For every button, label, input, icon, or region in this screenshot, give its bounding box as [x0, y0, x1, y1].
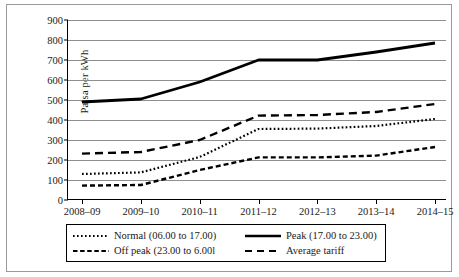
- legend-label: Average tariff: [286, 245, 344, 256]
- legend-entry-peak[interactable]: Peak (17.00 to 23.00): [245, 230, 377, 241]
- y-tick-label: 700: [47, 55, 63, 66]
- y-tick-label: 100: [47, 175, 63, 186]
- long-dash-line-icon: [245, 246, 281, 256]
- y-tick-label: 400: [47, 115, 63, 126]
- series-line: [82, 43, 435, 102]
- series-line: [82, 119, 435, 174]
- chart-legend: Normal (06.00 to 17.00) Peak (17.00 to 2…: [66, 224, 386, 262]
- legend-entry-off-peak[interactable]: Off peak (23.00 to 6.00l: [73, 245, 245, 256]
- x-tick-label: 2012–13: [299, 206, 336, 217]
- solid-line-icon: [245, 231, 281, 241]
- legend-entry-average-tariff[interactable]: Average tariff: [245, 245, 344, 256]
- x-tick-label: 2010–11: [181, 206, 217, 217]
- y-tick-label: 0: [58, 195, 63, 206]
- x-tick-label: 2011–12: [240, 206, 276, 217]
- legend-entry-normal[interactable]: Normal (06.00 to 17.00): [73, 230, 245, 241]
- y-tick-label: 300: [47, 135, 63, 146]
- plot-area: Paisa per kWh 01002003004005006007008009…: [67, 20, 446, 200]
- x-tick-label: 2009–10: [122, 206, 159, 217]
- legend-row: Normal (06.00 to 17.00) Peak (17.00 to 2…: [73, 228, 379, 243]
- x-tick-label: 2013–14: [358, 206, 395, 217]
- legend-label: Peak (17.00 to 23.00): [286, 230, 377, 241]
- series-lines: [68, 20, 447, 200]
- legend-label: Off peak (23.00 to 6.00l: [114, 245, 215, 256]
- x-tick-label: 2008–09: [64, 206, 101, 217]
- y-tick-label: 800: [47, 35, 63, 46]
- y-tick-label: 600: [47, 75, 63, 86]
- y-tick-label: 500: [47, 95, 63, 106]
- y-tick-label: 200: [47, 155, 63, 166]
- chart-figure: Paisa per kWh 01002003004005006007008009…: [0, 0, 459, 277]
- x-tick-label: 2014–15: [417, 206, 454, 217]
- y-tick-label: 900: [47, 15, 63, 26]
- dotted-line-icon: [73, 231, 109, 241]
- legend-row: Off peak (23.00 to 6.00l Average tariff: [73, 243, 379, 258]
- dashed-line-icon: [73, 246, 109, 256]
- legend-label: Normal (06.00 to 17.00): [114, 230, 216, 241]
